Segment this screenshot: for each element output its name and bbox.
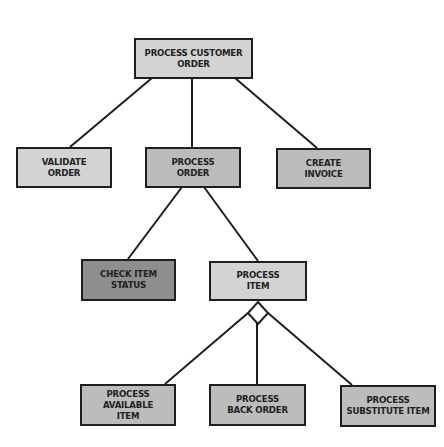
node-label: PROCESS AVAILABLE ITEM (85, 389, 171, 422)
edge-process-item-available (165, 313, 248, 384)
edge-root-create-invoice (235, 78, 317, 148)
node-process-back-order[interactable]: PROCESS BACK ORDER (209, 384, 306, 426)
node-process-item[interactable]: PROCESS ITEM (209, 261, 307, 301)
node-label: PROCESS BACK ORDER (227, 394, 288, 416)
node-process-order[interactable]: PROCESS ORDER (145, 147, 241, 188)
node-create-invoice[interactable]: CREATE INVOICE (276, 148, 371, 189)
node-validate-order[interactable]: VALIDATE ORDER (16, 147, 112, 188)
node-label: PROCESS SUBSTITUTE ITEM (346, 395, 429, 417)
selection-diamond-icon (248, 302, 268, 324)
node-process-substitute-item[interactable]: PROCESS SUBSTITUTE ITEM (340, 385, 436, 427)
diagram-canvas: PROCESS CUSTOMER ORDER VALIDATE ORDER PR… (0, 0, 444, 447)
edge-process-item-substitute (268, 313, 352, 385)
node-label: CREATE INVOICE (304, 158, 342, 180)
edge-root-validate (70, 78, 152, 147)
node-label: CHECK ITEM STATUS (100, 269, 157, 291)
node-label: PROCESS ORDER (172, 157, 215, 179)
node-label: PROCESS ITEM (237, 270, 280, 292)
node-check-item-status[interactable]: CHECK ITEM STATUS (81, 259, 176, 301)
node-label: PROCESS CUSTOMER ORDER (145, 48, 243, 70)
node-label: VALIDATE ORDER (42, 157, 87, 179)
node-process-customer-order[interactable]: PROCESS CUSTOMER ORDER (134, 38, 253, 79)
edge-process-order-process-item (204, 187, 258, 261)
edge-process-order-check-item (128, 187, 182, 259)
node-process-available-item[interactable]: PROCESS AVAILABLE ITEM (80, 384, 176, 426)
